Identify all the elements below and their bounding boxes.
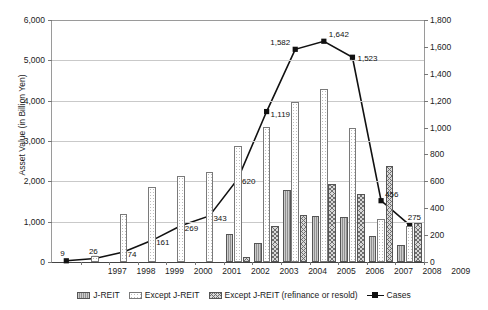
- bar-jreit: [312, 216, 320, 262]
- cases-data-label: 1,119: [271, 110, 290, 119]
- y2-axis-tick: [424, 128, 428, 129]
- y2-axis-tick: [424, 235, 428, 236]
- legend-item-cases[interactable]: Cases: [367, 290, 411, 300]
- cases-data-label: 456: [385, 190, 398, 199]
- bar-except-jreit-refinance: [414, 223, 422, 262]
- y-axis-tick: [48, 222, 52, 223]
- x-axis-tick: [310, 262, 311, 265]
- bar-except-jreit: [349, 128, 357, 262]
- y2-axis-tick-label: 1,600: [430, 42, 470, 52]
- chart-container: Asset Value (in Billion Yen) 19971998199…: [0, 0, 488, 310]
- bar-jreit: [397, 245, 405, 262]
- y2-axis-tick-label: 1,000: [430, 123, 470, 133]
- legend-swatch-refi: [209, 292, 222, 299]
- y-axis-tick-label: 2,000: [7, 176, 45, 186]
- y-axis-tick-label: 5,000: [7, 55, 45, 65]
- bar-except-jreit-refinance: [328, 184, 336, 262]
- legend-label: Except J-REIT: [145, 290, 200, 300]
- bar-jreit: [226, 234, 234, 262]
- y2-axis-tick: [424, 154, 428, 155]
- y2-axis-tick: [424, 101, 428, 102]
- cases-data-label: 9: [60, 249, 64, 258]
- legend-swatch-except: [129, 292, 142, 299]
- gridline: [52, 20, 424, 21]
- x-axis-tick: [195, 262, 196, 265]
- bar-except-jreit-refinance: [386, 166, 394, 262]
- y2-axis-tick-label: 1,400: [430, 69, 470, 79]
- cases-data-label: 620: [242, 177, 255, 186]
- legend-item-refi[interactable]: Except J-REIT (refinance or resold): [209, 290, 358, 300]
- cases-data-label: 1,523: [357, 54, 377, 63]
- y2-axis-tick-label: 1,200: [430, 96, 470, 106]
- y2-axis-tick: [424, 208, 428, 209]
- y-axis-tick: [48, 60, 52, 61]
- cases-data-label: 1,642: [329, 30, 349, 39]
- cases-data-label: 275: [408, 213, 421, 222]
- gridline: [52, 101, 424, 102]
- legend-label: Cases: [387, 290, 411, 300]
- y2-axis-tick-label: 1,800: [430, 15, 470, 25]
- x-axis-tick: [109, 262, 110, 265]
- bar-except-jreit: [120, 214, 128, 262]
- legend-item-jreit[interactable]: J-REIT: [77, 290, 119, 300]
- cases-data-label: 26: [89, 247, 98, 256]
- bar-except-jreit: [291, 102, 299, 262]
- y-axis-tick-label: 0: [7, 257, 45, 267]
- y-axis-tick: [48, 101, 52, 102]
- bar-except-jreit-refinance: [300, 215, 308, 262]
- bar-except-jreit: [234, 146, 242, 262]
- cases-data-label: 1,582: [270, 38, 290, 47]
- x-axis-tick: [138, 262, 139, 265]
- bar-jreit: [254, 243, 262, 262]
- bar-except-jreit: [206, 172, 214, 262]
- chart-legend: J-REITExcept J-REITExcept J-REIT (refina…: [0, 290, 488, 300]
- y2-axis-tick-label: 800: [430, 149, 470, 159]
- legend-label: Except J-REIT (refinance or resold): [225, 290, 358, 300]
- y-axis-tick: [48, 141, 52, 142]
- legend-label: J-REIT: [93, 290, 119, 300]
- bar-except-jreit: [320, 89, 328, 262]
- bar-except-jreit: [177, 176, 185, 262]
- x-axis-tick: [424, 262, 425, 265]
- x-axis-tick: [395, 262, 396, 265]
- bar-except-jreit: [91, 256, 99, 262]
- y2-axis-tick: [424, 181, 428, 182]
- y-axis-tick-label: 6,000: [7, 15, 45, 25]
- x-axis-tick: [252, 262, 253, 265]
- cases-data-label: 161: [156, 238, 169, 247]
- y2-axis-tick-label: 600: [430, 176, 470, 186]
- bar-jreit: [369, 236, 377, 262]
- bar-except-jreit-refinance: [271, 226, 279, 262]
- bar-except-jreit: [406, 226, 414, 262]
- x-axis-tick: [281, 262, 282, 265]
- y-axis-tick-label: 1,000: [7, 217, 45, 227]
- bar-except-jreit-refinance: [357, 194, 365, 262]
- y-axis-tick-label: 4,000: [7, 96, 45, 106]
- bar-jreit: [283, 190, 291, 262]
- y2-axis-tick-label: 200: [430, 230, 470, 240]
- y-axis-tick-label: 3,000: [7, 136, 45, 146]
- legend-item-except[interactable]: Except J-REIT: [129, 290, 200, 300]
- cases-data-label: 269: [185, 224, 198, 233]
- y2-axis-tick: [424, 47, 428, 48]
- x-axis-tick: [166, 262, 167, 265]
- cases-data-label: 74: [128, 250, 137, 259]
- legend-swatch-cases: [367, 292, 384, 299]
- bar-except-jreit: [263, 127, 271, 262]
- x-axis-tick: [367, 262, 368, 265]
- y-axis-tick: [48, 262, 52, 263]
- y2-axis-tick: [424, 20, 428, 21]
- bar-except-jreit: [377, 219, 385, 262]
- x-axis-tick: [224, 262, 225, 265]
- bar-except-jreit: [148, 187, 156, 262]
- y-axis-tick: [48, 20, 52, 21]
- y2-axis-tick: [424, 74, 428, 75]
- legend-swatch-jreit: [77, 292, 90, 299]
- bar-jreit: [340, 217, 348, 262]
- x-axis-tick: [81, 262, 82, 265]
- y2-axis-tick-label: 0: [430, 257, 470, 267]
- y-axis-tick: [48, 181, 52, 182]
- y2-axis-tick-label: 400: [430, 203, 470, 213]
- x-axis-tick: [338, 262, 339, 265]
- gridline: [52, 141, 424, 142]
